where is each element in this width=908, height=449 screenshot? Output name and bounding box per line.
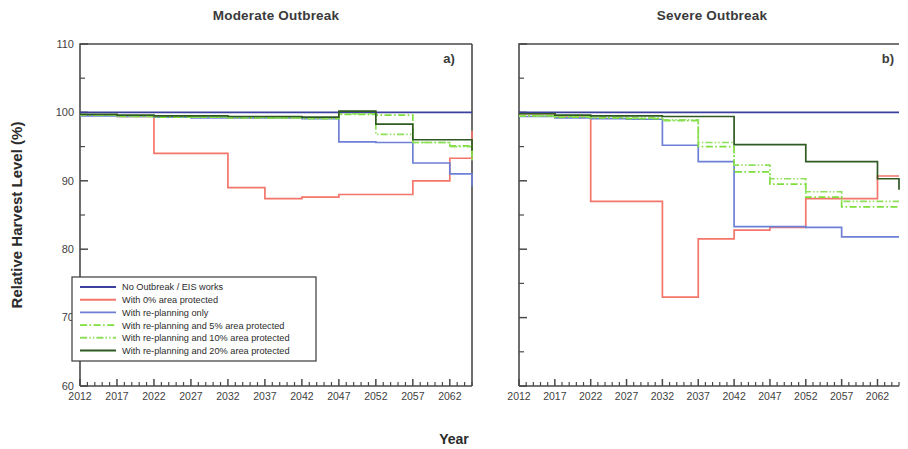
x-tick-label: 2022 [579, 390, 603, 402]
chart-legend: No Outbreak / EIS worksWith 0% area prot… [72, 277, 316, 361]
y-axis-title: Relative Harvest Level (%) [8, 122, 25, 309]
x-tick-label: 2027 [179, 390, 203, 402]
x-tick-label: 2062 [866, 390, 890, 402]
x-tick-label: 2062 [438, 390, 462, 402]
legend-label: No Outbreak / EIS works [122, 282, 224, 292]
x-tick-label: 2022 [142, 390, 166, 402]
y-tick-label: 80 [62, 243, 74, 255]
x-tick-label: 2017 [543, 390, 567, 402]
series-line [519, 116, 899, 202]
x-tick-label: 2057 [401, 390, 425, 402]
panel-a-series [80, 111, 472, 199]
y-tick-label: 110 [56, 38, 74, 50]
y-tick-label: 90 [62, 175, 74, 187]
x-tick-label: 2012 [507, 390, 531, 402]
x-tick-label: 2032 [651, 390, 675, 402]
x-tick-label: 2027 [615, 390, 639, 402]
x-tick-label: 2032 [216, 390, 240, 402]
x-tick-label: 2052 [364, 390, 388, 402]
x-tick-label: 2047 [758, 390, 782, 402]
panel-b-letter: b) [882, 51, 894, 66]
series-line [519, 114, 899, 190]
panel-b-title: Severe Outbreak [657, 8, 768, 23]
panel-b-series [519, 112, 899, 297]
panel-a-title: Moderate Outbreak [213, 8, 340, 23]
figure-root: Relative Harvest Level (%) Year Moderate… [0, 0, 908, 449]
panel-a-letter: a) [443, 51, 455, 66]
x-tick-label: 2012 [68, 390, 92, 402]
legend-label: With 0% area protected [122, 295, 218, 305]
x-axis-title: Year [439, 431, 469, 447]
x-tick-label: 2042 [290, 390, 314, 402]
x-tick-label: 2037 [687, 390, 711, 402]
legend-label: With re-planning only [122, 308, 209, 318]
x-tick-label: 2037 [253, 390, 277, 402]
x-tick-label: 2047 [327, 390, 351, 402]
panel-severe-outbreak: Severe Outbreak b) 201220172022202720322… [507, 8, 899, 402]
x-tick-label: 2057 [830, 390, 854, 402]
series-line [519, 117, 899, 237]
x-tick-label: 2017 [105, 390, 129, 402]
legend-label: With re-planning and 5% area protected [122, 321, 284, 331]
y-tick-label: 100 [56, 106, 74, 118]
x-tick-label: 2042 [722, 390, 746, 402]
x-tick-label: 2052 [794, 390, 818, 402]
legend-label: With re-planning and 10% area protected [122, 333, 290, 343]
legend-label: With re-planning and 20% area protected [122, 346, 290, 356]
panel-b-axes: 2012201720222027203220372042204720522057… [507, 44, 899, 402]
